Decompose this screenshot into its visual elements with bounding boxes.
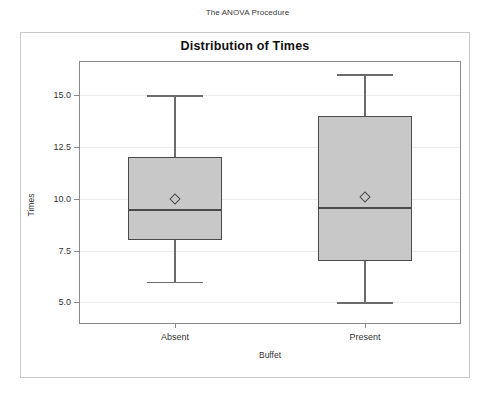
upper-whisker-cap [337,74,393,75]
lower-whisker [364,261,365,302]
y-tick-label: 10.0 [53,194,71,204]
y-tick-mark [74,199,79,200]
y-tick-label: 15.0 [53,90,71,100]
y-tick-mark [74,147,79,148]
graph-title: Distribution of Times [21,39,469,53]
x-tick-mark [175,323,176,328]
y-tick-label: 12.5 [53,142,71,152]
lower-whisker-cap [337,302,393,303]
boxplot-present [80,62,460,323]
upper-whisker [364,74,365,115]
box-iqr [318,116,412,261]
x-axis-title: Buffet [80,350,460,360]
graph-panel: Distribution of Times Times 5.07.510.012… [20,32,470,378]
y-tick-label: 7.5 [58,246,71,256]
procedure-header: The ANOVA Procedure [0,8,495,17]
y-tick-mark [74,95,79,96]
y-tick-label: 5.0 [58,297,71,307]
x-tick-label: Present [349,332,380,342]
x-tick-mark [365,323,366,328]
y-tick-mark [74,251,79,252]
median-line [318,207,412,209]
y-tick-mark [74,302,79,303]
y-axis-title: Times [26,194,36,217]
x-tick-label: Absent [161,332,189,342]
plot-area: 5.07.510.012.515.0 AbsentPresent Buffet [79,61,461,324]
